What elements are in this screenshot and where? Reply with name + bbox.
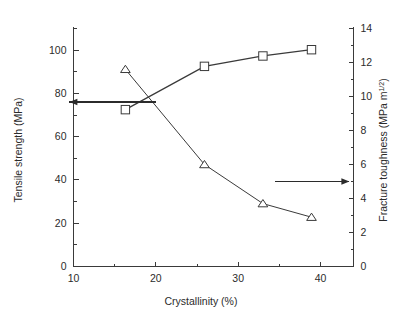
y2-tick-label: 14 bbox=[361, 22, 373, 34]
data-point-square bbox=[200, 62, 208, 70]
y-tick-label: 40 bbox=[55, 173, 67, 185]
x-tick-label: 10 bbox=[68, 272, 80, 284]
x-tick-label: 40 bbox=[315, 272, 327, 284]
y-tick-label: 60 bbox=[55, 130, 67, 142]
y2-axis-title-main: Fracture toughness (MPa m bbox=[377, 91, 389, 221]
x-axis-title: Crystallinity (%) bbox=[165, 295, 238, 307]
y2-tick-label: 8 bbox=[361, 124, 367, 136]
y2-tick-label: 6 bbox=[361, 158, 367, 170]
y-axis-title: Tensile strength (MPa) bbox=[12, 97, 24, 202]
data-point-square bbox=[259, 52, 267, 60]
y2-tick-label: 4 bbox=[361, 192, 367, 204]
y2-axis-title-tail: ) bbox=[377, 78, 389, 82]
dual-axis-line-chart: 10203040 020406080100 02468101214 Crysta… bbox=[0, 0, 402, 315]
data-point-square bbox=[307, 46, 315, 54]
data-point-square bbox=[121, 105, 129, 113]
y-tick-label: 80 bbox=[55, 87, 67, 99]
x-tick-label: 20 bbox=[150, 272, 162, 284]
y-tick-label: 20 bbox=[55, 217, 67, 229]
y2-tick-label: 0 bbox=[361, 260, 367, 272]
y2-axis-title-superscript: 1/2 bbox=[378, 82, 385, 92]
x-tick-label: 30 bbox=[232, 272, 244, 284]
chart-figure: 10203040 020406080100 02468101214 Crysta… bbox=[0, 0, 402, 315]
y2-axis-title: Fracture toughness (MPa m1/2) bbox=[377, 78, 389, 221]
y-tick-label: 100 bbox=[49, 44, 67, 56]
y2-tick-label: 10 bbox=[361, 90, 373, 102]
y2-tick-label: 12 bbox=[361, 56, 373, 68]
y-tick-label: 0 bbox=[61, 260, 67, 272]
y2-tick-label: 2 bbox=[361, 226, 367, 238]
